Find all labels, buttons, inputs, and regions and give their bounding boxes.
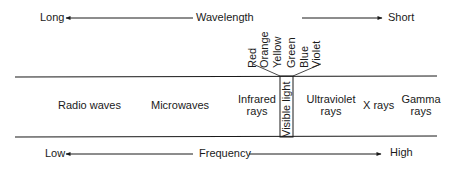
color-label-orange: Orange — [259, 31, 270, 68]
frequency-low-label: Low — [45, 147, 65, 159]
region-ultraviolet-line2: rays — [298, 105, 364, 117]
wavelength-axis-label: Wavelength — [196, 11, 254, 23]
region-infrared-line1: Infrared — [232, 93, 282, 105]
wavelength-long-label: Long — [40, 11, 64, 23]
region-microwaves: Microwaves — [151, 99, 209, 111]
frequency-high-label: High — [390, 146, 413, 158]
color-label-green: Green — [286, 37, 297, 68]
region-ultraviolet-line1: Ultraviolet — [298, 93, 364, 105]
region-gamma: Gamma rays — [396, 93, 446, 117]
region-x-rays: X rays — [363, 99, 394, 111]
region-radio-waves: Radio waves — [58, 99, 121, 111]
region-gamma-line1: Gamma — [396, 93, 446, 105]
color-label-red: Red — [247, 48, 258, 68]
color-label-violet: Violet — [311, 41, 322, 68]
color-label-yellow: Yellow — [272, 37, 283, 68]
band-top-line — [15, 76, 437, 77]
region-ultraviolet: Ultraviolet rays — [298, 93, 364, 117]
wavelength-short-label: Short — [388, 11, 414, 23]
region-infrared-line2: rays — [232, 105, 282, 117]
region-gamma-line2: rays — [396, 105, 446, 117]
region-visible-light: Visible light — [281, 82, 292, 137]
color-label-blue: Blue — [299, 46, 310, 68]
frequency-axis-label: Frequency — [199, 147, 251, 159]
band-bottom-line — [15, 136, 437, 137]
region-infrared: Infrared rays — [232, 93, 282, 117]
diagram-lines — [0, 0, 453, 170]
